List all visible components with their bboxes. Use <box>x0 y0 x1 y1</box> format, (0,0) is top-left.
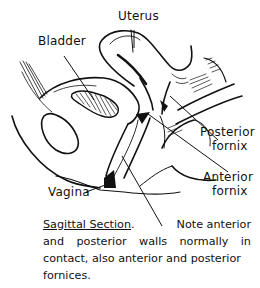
caption-word: normally <box>179 233 228 250</box>
caption-line4-text: fornices. <box>43 267 91 284</box>
caption-line-1: Sagittal Section. Note anterior <box>43 216 251 233</box>
label-anterior-fornix-2: fornix <box>212 185 248 198</box>
caption-word: in <box>241 233 251 250</box>
caption-word: posterior <box>76 233 126 250</box>
caption-word: and <box>43 233 64 250</box>
figure-caption: Sagittal Section. Note anterior and post… <box>43 216 251 284</box>
label-vagina: Vagina <box>48 186 90 199</box>
label-uterus: Uterus <box>118 10 159 23</box>
caption-line-2: and posterior walls normally in <box>43 233 251 250</box>
caption-word: walls <box>139 233 167 250</box>
label-posterior-fornix-1: Posterior <box>200 126 255 139</box>
caption-line3-text: contact, also anterior and posterior <box>43 250 241 267</box>
label-anterior-fornix-1: Anterior <box>203 171 253 184</box>
label-bladder: Bladder <box>38 35 86 48</box>
caption-title: Sagittal Section <box>43 218 131 231</box>
bladder-cavity <box>71 91 118 117</box>
caption-line-4: fornices. <box>43 267 251 284</box>
caption-line-3: contact, also anterior and posterior <box>43 250 251 267</box>
caption-period: . <box>131 218 135 231</box>
bladder-outline <box>40 78 139 124</box>
pubic-bone <box>42 114 79 154</box>
caption-line1-rest: Note anterior <box>177 216 251 233</box>
label-posterior-fornix-2: fornix <box>212 140 248 153</box>
